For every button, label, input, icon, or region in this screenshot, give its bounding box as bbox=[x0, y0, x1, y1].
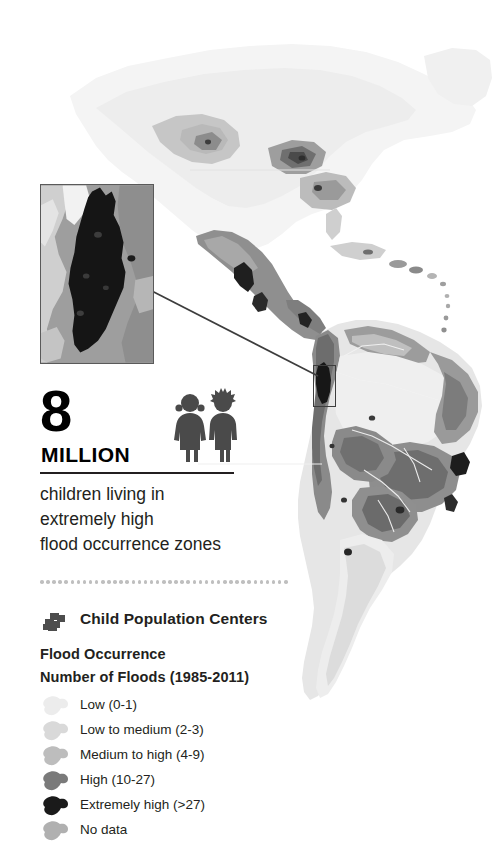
divider-dot bbox=[162, 580, 166, 584]
divider-dot bbox=[217, 580, 221, 584]
legend-item-label: Low to medium (2-3) bbox=[80, 722, 204, 737]
dotted-divider bbox=[40, 580, 287, 584]
legend-child-centers-label: Child Population Centers bbox=[80, 610, 268, 628]
divider-dot bbox=[150, 580, 154, 584]
inset-map-colombia bbox=[40, 184, 154, 364]
statistic-caption: children living in extremely high flood … bbox=[40, 482, 255, 557]
legend-item-label: Low (0-1) bbox=[80, 697, 137, 712]
statistic-divider-rule bbox=[40, 472, 234, 474]
divider-dot bbox=[199, 580, 203, 584]
legend-heading-flood-occurrence: Flood Occurrence bbox=[40, 646, 300, 662]
divider-dot bbox=[235, 580, 239, 584]
divider-dot bbox=[223, 580, 227, 584]
legend-item: Low to medium (2-3) bbox=[0, 719, 300, 744]
divider-dot bbox=[247, 580, 251, 584]
divider-dot bbox=[138, 580, 142, 584]
legend-item: Extremely high (>27) bbox=[0, 794, 300, 819]
caption-line-1: children living in bbox=[40, 482, 255, 507]
inset-map-svg bbox=[41, 185, 153, 363]
divider-dot bbox=[52, 580, 56, 584]
legend-item-list: Low (0-1) Low to medium (2-3) Medium to … bbox=[0, 694, 300, 844]
legend-swatch-icon bbox=[42, 745, 70, 767]
divider-dot bbox=[64, 580, 68, 584]
divider-dot bbox=[119, 580, 123, 584]
legend-item-label: Extremely high (>27) bbox=[80, 797, 205, 812]
divider-dot bbox=[83, 580, 87, 584]
child-population-centers-icon bbox=[42, 612, 68, 634]
divider-dot bbox=[180, 580, 184, 584]
legend-item: Low (0-1) bbox=[0, 694, 300, 719]
divider-dot bbox=[58, 580, 62, 584]
divider-dot bbox=[107, 580, 111, 584]
divider-dot bbox=[77, 580, 81, 584]
legend-item-label: No data bbox=[80, 822, 127, 837]
divider-dot bbox=[174, 580, 178, 584]
divider-dot bbox=[284, 580, 288, 584]
divider-dot bbox=[241, 580, 245, 584]
divider-dot bbox=[132, 580, 136, 584]
divider-dot bbox=[229, 580, 233, 584]
statistic-unit: MILLION bbox=[41, 444, 130, 465]
divider-dot bbox=[144, 580, 148, 584]
divider-dot bbox=[193, 580, 197, 584]
legend-heading-number-of-floods: Number of Floods (1985-2011) bbox=[40, 669, 300, 685]
divider-dot bbox=[168, 580, 172, 584]
divider-dot bbox=[260, 580, 264, 584]
legend-item-label: High (10-27) bbox=[80, 772, 155, 787]
legend-swatch-icon bbox=[42, 795, 70, 817]
legend-item-label: Medium to high (4-9) bbox=[80, 747, 205, 762]
divider-dot bbox=[254, 580, 258, 584]
divider-dot bbox=[71, 580, 75, 584]
map-legend: Child Population Centers Flood Occurrenc… bbox=[0, 608, 300, 844]
callout-region-box bbox=[313, 365, 336, 407]
legend-swatch-icon bbox=[42, 695, 70, 717]
legend-item: No data bbox=[0, 819, 300, 844]
divider-dot bbox=[95, 580, 99, 584]
two-children-icon bbox=[168, 388, 244, 464]
legend-swatch-icon bbox=[42, 720, 70, 742]
divider-dot bbox=[46, 580, 50, 584]
caption-line-3: flood occurrence zones bbox=[40, 532, 255, 557]
divider-dot bbox=[186, 580, 190, 584]
legend-swatch-icon bbox=[42, 770, 70, 792]
divider-dot bbox=[40, 580, 44, 584]
divider-dot bbox=[89, 580, 93, 584]
divider-dot bbox=[125, 580, 129, 584]
divider-dot bbox=[211, 580, 215, 584]
statistic-number: 8 bbox=[40, 382, 71, 440]
divider-dot bbox=[156, 580, 160, 584]
divider-dot bbox=[272, 580, 276, 584]
divider-dot bbox=[113, 580, 117, 584]
caption-line-2: extremely high bbox=[40, 507, 255, 532]
divider-dot bbox=[278, 580, 282, 584]
legend-item: Medium to high (4-9) bbox=[0, 744, 300, 769]
divider-dot bbox=[205, 580, 209, 584]
divider-dot bbox=[266, 580, 270, 584]
legend-item: High (10-27) bbox=[0, 769, 300, 794]
legend-swatch-icon bbox=[42, 820, 70, 842]
statistic-headline-row: 8 MILLION bbox=[0, 386, 250, 478]
statistic-panel: 8 MILLION children living in extr bbox=[0, 386, 250, 478]
legend-child-population-centers: Child Population Centers bbox=[0, 608, 300, 638]
divider-dot bbox=[101, 580, 105, 584]
